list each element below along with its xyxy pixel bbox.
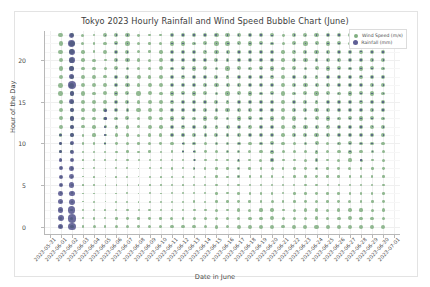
wind-bubble <box>59 66 63 70</box>
rainfall-bubble <box>349 59 351 61</box>
wind-bubble <box>82 193 83 194</box>
wind-bubble <box>237 208 240 211</box>
rainfall-bubble <box>194 159 195 160</box>
rainfall-bubble <box>249 34 251 36</box>
wind-bubble <box>382 159 385 162</box>
wind-bubble <box>259 225 263 229</box>
rainfall-bubble <box>171 76 173 78</box>
wind-bubble <box>92 59 95 62</box>
rainfall-bubble <box>105 35 106 36</box>
wind-bubble <box>126 133 129 136</box>
rainfall-bubble <box>371 51 373 53</box>
gridline-horizontal <box>44 35 400 36</box>
wind-bubble <box>281 75 285 79</box>
rainfall-bubble <box>360 59 362 61</box>
rainfall-bubble <box>371 134 373 136</box>
wind-bubble <box>270 208 273 211</box>
wind-bubble <box>248 142 252 146</box>
wind-bubble <box>348 208 351 211</box>
rainfall-bubble <box>69 33 74 38</box>
rainfall-bubble <box>182 134 184 136</box>
rainfall-bubble <box>238 76 240 78</box>
rainfall-bubble <box>338 109 340 111</box>
rainfall-bubble <box>271 84 273 86</box>
y-tick <box>41 60 44 61</box>
wind-bubble <box>115 225 118 228</box>
wind-bubble <box>159 117 163 121</box>
gridline-horizontal <box>44 210 400 211</box>
x-axis-label: Date in June <box>0 273 430 281</box>
wind-bubble <box>204 150 207 153</box>
wind-bubble <box>149 201 151 203</box>
rainfall-bubble <box>260 51 262 53</box>
wind-bubble <box>281 100 285 104</box>
gridline-horizontal <box>44 43 400 44</box>
rainfall-bubble <box>349 134 350 135</box>
rainfall-bubble <box>171 59 173 61</box>
rainfall-bubble <box>59 175 63 179</box>
wind-bubble <box>282 150 285 153</box>
wind-bubble <box>304 200 307 203</box>
wind-bubble <box>326 192 328 194</box>
wind-bubble <box>248 217 251 220</box>
wind-bubble <box>159 83 163 87</box>
wind-bubble <box>160 193 162 195</box>
rainfall-bubble <box>205 126 207 128</box>
rainfall-bubble <box>69 182 74 187</box>
wind-bubble <box>204 159 206 161</box>
rainfall-bubble <box>182 59 184 61</box>
wind-bubble <box>126 125 130 129</box>
wind-bubble <box>248 167 251 170</box>
wind-bubble <box>92 75 96 79</box>
rainfall-bubble <box>204 76 206 78</box>
rainfall-bubble <box>70 116 74 120</box>
wind-bubble <box>215 225 219 229</box>
wind-bubble <box>104 159 106 161</box>
rainfall-bubble <box>70 150 74 154</box>
wind-bubble <box>149 159 151 161</box>
gridline-horizontal-major <box>44 185 400 186</box>
gridline-horizontal <box>44 93 400 94</box>
wind-bubble <box>327 184 329 186</box>
y-tick <box>41 185 44 186</box>
wind-bubble <box>281 91 285 95</box>
rainfall-bubble <box>349 68 350 69</box>
wind-bubble <box>137 151 139 153</box>
wind-bubble <box>159 75 163 79</box>
wind-bubble <box>115 217 118 220</box>
wind-bubble <box>248 225 252 229</box>
rainfall-bubble <box>271 43 272 44</box>
wind-bubble <box>82 151 84 153</box>
gridline-horizontal-major <box>44 60 400 61</box>
rainfall-bubble <box>238 59 240 61</box>
wind-bubble <box>304 159 307 162</box>
wind-bubble <box>382 192 385 195</box>
rainfall-bubble <box>260 34 262 36</box>
wind-bubble <box>182 201 184 203</box>
wind-bubble <box>371 200 374 203</box>
y-tick-label: 20 <box>18 57 26 64</box>
legend-entry-wind[interactable]: Wind Speed (m/s) <box>353 32 403 39</box>
gridline-horizontal <box>44 168 400 169</box>
rainfall-bubble <box>305 101 307 103</box>
wind-bubble <box>382 167 385 170</box>
wind-bubble <box>293 217 296 220</box>
wind-bubble <box>93 201 95 203</box>
rainfall-bubble <box>305 35 306 36</box>
rainfall-bubble <box>349 84 351 86</box>
chart-legend[interactable]: Wind Speed (m/s) Rainfall (mm) <box>349 29 407 49</box>
gridline-horizontal <box>44 152 400 153</box>
gridline-horizontal <box>44 177 400 178</box>
legend-label-rain: Rainfall (mm) <box>361 40 392 46</box>
rainfall-bubble <box>382 51 384 53</box>
wind-bubble <box>160 201 162 203</box>
wind-bubble <box>326 209 329 212</box>
rainfall-bubble <box>194 134 195 135</box>
wind-bubble <box>326 200 329 203</box>
wind-bubble <box>282 217 285 220</box>
wind-bubble <box>137 100 141 104</box>
rainfall-bubble <box>260 126 262 128</box>
legend-entry-rain[interactable]: Rainfall (mm) <box>353 39 403 46</box>
rainfall-bubble <box>115 76 117 78</box>
rainfall-bubble <box>294 109 295 110</box>
